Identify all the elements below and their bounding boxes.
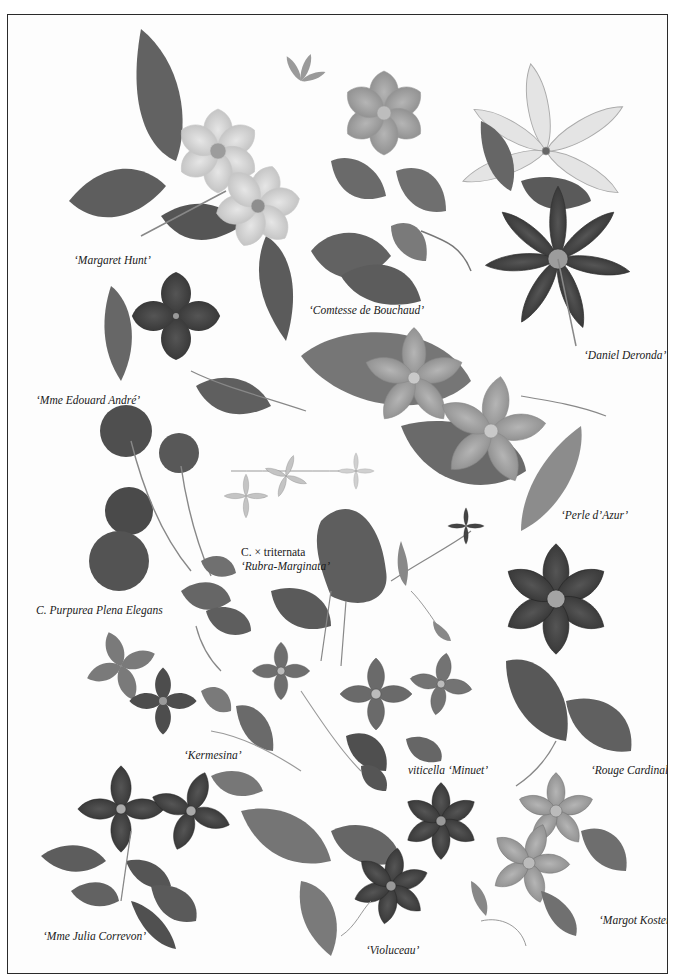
label-comtesse-de-bouchaud: ‘Comtesse de Bouchaud’	[309, 303, 424, 317]
clematis-illustration	[8, 15, 667, 973]
mme-julia-correvon-specimen	[41, 766, 233, 949]
label-purpurea-plena-elegans: C. Purpurea Plena Elegans	[36, 603, 163, 617]
label-daniel-deronda: ‘Daniel Deronda’	[584, 348, 666, 362]
comtesse-de-bouchaud-specimen	[284, 53, 471, 305]
rouge-cardinal-specimen	[502, 544, 632, 786]
label-perle-d-azur: ‘Perle d’Azur’	[561, 508, 628, 522]
label-triternata-species: C. × triternata	[241, 545, 305, 559]
botanical-plate: ‘Margaret Hunt’ ‘Comtesse de Bouchaud’ ‘…	[7, 14, 668, 974]
label-mme-edouard-andre: ‘Mme Edouard André’	[36, 393, 140, 407]
label-triternata-cultivar: ‘Rubra-Marginata’	[241, 559, 330, 573]
daniel-deronda-specimen	[460, 62, 631, 346]
label-violuceau: ‘Violuceau’	[366, 943, 419, 957]
label-mme-julia-correvon: ‘Mme Julia Correvon’	[43, 929, 146, 943]
label-triternata-line1: C. × triternata	[241, 546, 305, 558]
purpurea-plena-elegans-specimen	[89, 405, 251, 671]
label-margaret-hunt: ‘Margaret Hunt’	[74, 253, 151, 267]
label-viticella-minuet: viticella ‘Minuet’	[408, 763, 488, 777]
label-kermesina: ‘Kermesina’	[184, 748, 242, 762]
label-margot-koster: ‘Margot Koster’	[599, 913, 668, 927]
label-rouge-cardinal: ‘Rouge Cardinal’	[591, 763, 668, 777]
violuceau-specimen	[241, 783, 479, 956]
perle-d-azur-specimen	[301, 328, 606, 531]
